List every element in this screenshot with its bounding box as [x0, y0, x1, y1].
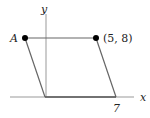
- point-a-label: A: [9, 32, 18, 45]
- point-a-dot: [22, 35, 28, 41]
- point-5-8-dot: [93, 35, 99, 41]
- x-tick-7-label: 7: [113, 102, 120, 115]
- x-axis-label: x: [140, 91, 147, 104]
- y-axis-label: y: [40, 3, 48, 16]
- point-5-8-label: (5, 8): [103, 32, 133, 45]
- diagram-canvas: y x A (5, 8) 7: [0, 0, 150, 118]
- right-edge: [96, 38, 116, 97]
- left-edge: [25, 38, 45, 97]
